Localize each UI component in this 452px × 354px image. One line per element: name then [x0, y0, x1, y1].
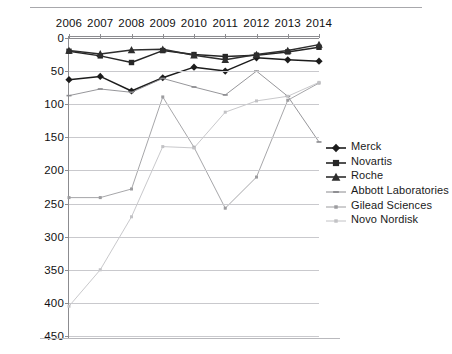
- y-axis-tick-label: 300: [44, 231, 64, 243]
- gridline: [69, 71, 319, 72]
- gridline: [69, 237, 319, 238]
- series-line: [69, 58, 319, 91]
- x-axis-tick: [69, 34, 70, 38]
- x-axis-labels: 200620072008200920102011201220132014: [69, 0, 319, 34]
- series-merck: [65, 54, 322, 94]
- gridline: [69, 170, 319, 171]
- y-axis-labels: 050100150200250300350400450: [0, 38, 64, 336]
- legend-item-novo-nordisk[interactable]: Novo Nordisk: [326, 212, 450, 227]
- x-axis-tick-label: 2013: [275, 17, 301, 29]
- y-axis-tick-label: 100: [44, 98, 64, 110]
- legend-swatch-icon: [326, 199, 346, 211]
- y-axis-tick: [65, 137, 69, 138]
- gridline: [69, 38, 319, 39]
- x-axis-tick-label: 2014: [306, 17, 332, 29]
- y-axis-tick-label: 0: [57, 32, 64, 44]
- legend-swatch-icon: [326, 169, 346, 181]
- data-point: [98, 88, 103, 90]
- series-novo-nordisk: [68, 81, 321, 308]
- x-axis-tick: [288, 34, 289, 38]
- bottom-divider: [40, 338, 340, 339]
- x-axis-tick: [257, 34, 258, 38]
- data-point: [255, 99, 258, 102]
- y-axis-tick: [65, 303, 69, 304]
- x-axis-tick: [194, 34, 195, 38]
- legend-item-gilead-sciences[interactable]: Gilead Sciences: [326, 197, 450, 212]
- data-point: [190, 64, 197, 71]
- data-point: [192, 86, 197, 88]
- y-axis-tick-label: 250: [44, 198, 64, 210]
- series-gilead-sciences: [68, 82, 321, 210]
- legend-item-label: Gilead Sciences: [351, 199, 432, 211]
- legend-item-abbott-laboratories[interactable]: Abbott Laboratories: [326, 183, 450, 198]
- data-point: [97, 73, 104, 80]
- gridline: [69, 336, 319, 337]
- gridline: [69, 270, 319, 271]
- legend-item-novartis[interactable]: Novartis: [326, 154, 450, 169]
- legend-item-roche[interactable]: Roche: [326, 168, 450, 183]
- data-point: [284, 56, 291, 63]
- y-axis-tick-label: 150: [44, 131, 64, 143]
- gridline: [69, 104, 319, 105]
- data-point: [161, 145, 164, 148]
- gridline: [69, 204, 319, 205]
- x-axis-tick: [163, 34, 164, 38]
- legend-item-label: Novo Nordisk: [351, 213, 418, 225]
- data-point: [224, 111, 227, 114]
- x-axis-tick: [100, 34, 101, 38]
- series-abbott-laboratories: [67, 70, 322, 142]
- series-line: [69, 71, 319, 142]
- data-point: [130, 187, 133, 190]
- data-point: [68, 305, 71, 308]
- x-axis-tick: [132, 34, 133, 38]
- data-point: [286, 95, 289, 98]
- data-point: [161, 95, 164, 98]
- gridline: [69, 303, 319, 304]
- data-point: [129, 60, 134, 65]
- y-axis-tick-label: 450: [44, 330, 64, 342]
- series-line: [69, 83, 319, 208]
- data-point: [65, 76, 72, 83]
- data-point: [160, 78, 165, 80]
- legend-swatch-icon: [326, 184, 346, 196]
- x-axis-tick-label: 2009: [150, 17, 176, 29]
- y-axis-tick: [65, 71, 69, 72]
- y-axis-tick: [65, 336, 69, 337]
- legend-item-label: Abbott Laboratories: [351, 184, 449, 196]
- y-axis-tick: [65, 104, 69, 105]
- x-axis-tick-label: 2007: [87, 17, 113, 29]
- data-point: [129, 92, 134, 94]
- gridline: [69, 137, 319, 138]
- data-point: [317, 141, 322, 143]
- data-point: [68, 196, 71, 199]
- data-point: [223, 94, 228, 96]
- data-point: [315, 58, 322, 65]
- x-axis-tick-label: 2006: [56, 17, 82, 29]
- y-axis-tick: [65, 237, 69, 238]
- data-point: [193, 146, 196, 149]
- data-point: [224, 207, 227, 210]
- chart-legend: MerckNovartisRocheAbbott LaboratoriesGil…: [326, 139, 450, 227]
- x-axis-tick-label: 2011: [212, 17, 238, 29]
- legend-item-merck[interactable]: Merck: [326, 139, 450, 154]
- data-point: [318, 81, 321, 84]
- y-axis-tick-label: 200: [44, 164, 64, 176]
- legend-item-label: Novartis: [351, 155, 392, 167]
- legend-item-label: Merck: [351, 140, 381, 152]
- data-point: [315, 41, 323, 48]
- y-axis-tick-label: 350: [44, 264, 64, 276]
- y-axis-tick-label: 50: [51, 65, 64, 77]
- legend-swatch-icon: [326, 213, 346, 225]
- plot-area: [69, 38, 319, 336]
- y-axis-tick: [65, 170, 69, 171]
- y-axis-tick: [65, 38, 69, 39]
- data-point: [286, 99, 289, 102]
- x-axis-tick: [225, 34, 226, 38]
- y-axis-tick: [65, 270, 69, 271]
- series-layer: [69, 38, 319, 336]
- x-axis-tick-label: 2012: [243, 17, 269, 29]
- x-axis-tick-label: 2010: [181, 17, 207, 29]
- legend-swatch-icon: [326, 140, 346, 152]
- data-point: [130, 215, 133, 218]
- y-axis-tick-label: 400: [44, 297, 64, 309]
